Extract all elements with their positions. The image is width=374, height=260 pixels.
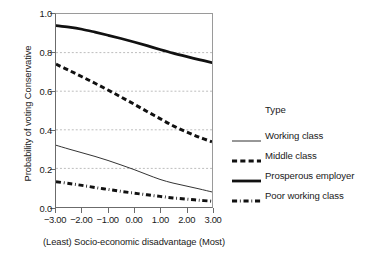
y-tick-label: 0.8 xyxy=(18,47,52,58)
plot-area xyxy=(55,13,213,208)
plot-canvas xyxy=(56,14,212,207)
y-tick-label: 0.4 xyxy=(18,125,52,136)
legend-swatch-dashdot-line-icon xyxy=(232,197,261,198)
legend-title: Type xyxy=(265,104,286,115)
chart-figure: Probability of voting Conservative 0.00.… xyxy=(0,0,374,260)
series-line-middle-class xyxy=(56,64,212,142)
legend-swatch-solid-line-icon xyxy=(232,177,261,178)
legend-label: Working class xyxy=(265,130,323,141)
series-lines xyxy=(56,26,212,202)
gridlines xyxy=(56,53,212,169)
x-tick-mark xyxy=(134,208,135,213)
series-line-poor-working-class xyxy=(56,182,212,201)
y-tick-label: 1.0 xyxy=(18,8,52,19)
x-axis-title: (Least) Socio-economic disadvantage (Mos… xyxy=(0,236,268,247)
x-tick-mark xyxy=(108,208,109,213)
legend-label: Middle class xyxy=(265,150,317,161)
y-tick-label: 0.6 xyxy=(18,86,52,97)
x-tick-label: 3.00 xyxy=(191,214,235,225)
legend-swatch-dashed-line-icon xyxy=(232,157,261,158)
x-tick-mark xyxy=(213,208,214,213)
x-tick-mark xyxy=(81,208,82,213)
y-tick-label: 0.0 xyxy=(18,203,52,214)
series-line-prosperous-employer xyxy=(56,26,212,63)
x-tick-mark xyxy=(160,208,161,213)
x-tick-mark xyxy=(187,208,188,213)
y-tick-label: 0.2 xyxy=(18,164,52,175)
x-tick-mark xyxy=(55,208,56,213)
legend-swatch-solid-line-icon xyxy=(232,137,261,138)
legend-label: Poor working class xyxy=(265,190,344,201)
legend-label: Prosperous employer xyxy=(265,170,354,181)
